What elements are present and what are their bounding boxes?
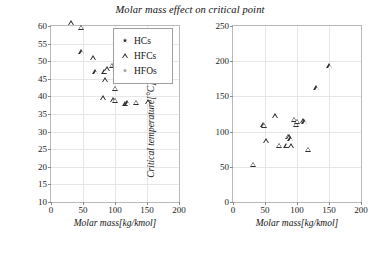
- marker-triangle-icon: [68, 20, 74, 42]
- y-axis-tick: [48, 167, 51, 168]
- gridline-vertical: [297, 26, 298, 202]
- marker-triangle-icon: [79, 49, 85, 71]
- marker-triangle-icon: [125, 100, 131, 122]
- x-axis-tick-label: 0: [231, 205, 236, 215]
- marker-star-gray-icon: [123, 68, 128, 73]
- x-axis-title: Molar mass[kg/kmol]: [256, 218, 339, 228]
- marker-triangle-icon: [112, 98, 118, 120]
- legend-marker: [119, 68, 131, 73]
- marker-triangle-icon: [302, 119, 308, 141]
- data-point-hfcs: [314, 85, 320, 103]
- data-point-hfcs: [68, 20, 74, 38]
- y-axis-tick: [48, 202, 51, 203]
- legend-item-hcs[interactable]: HCs: [119, 33, 167, 48]
- gridline-vertical: [329, 26, 330, 202]
- x-axis-tick-label: 200: [354, 205, 368, 215]
- legend-item-hfcs[interactable]: HFCs: [119, 48, 167, 63]
- x-axis-tick-label: 50: [79, 205, 88, 215]
- y-axis-tick-label: 0: [225, 197, 230, 207]
- y-axis-tick-label: 250: [216, 21, 230, 31]
- data-point-hfcs: [263, 138, 269, 156]
- marker-triangle-icon: [327, 63, 333, 85]
- y-axis-tick-label: 40: [38, 91, 47, 101]
- marker-star-dark-icon: [123, 38, 128, 43]
- y-axis-tick-label: 200: [216, 56, 230, 66]
- y-axis-tick-label: 45: [38, 74, 47, 84]
- gridline-horizontal: [51, 132, 179, 133]
- gridline-horizontal: [233, 61, 361, 62]
- y-axis-tick: [230, 167, 233, 168]
- y-axis-tick: [230, 132, 233, 133]
- legend-item-label: HCs: [134, 36, 151, 46]
- y-axis-tick-label: 50: [220, 162, 229, 172]
- panel-critical-temperature: 050100150200050100150200250Molar mass[kg…: [190, 0, 380, 260]
- gridline-vertical: [265, 26, 266, 202]
- data-point-hfcs: [276, 143, 282, 161]
- y-axis-tick: [230, 202, 233, 203]
- plot-area-critical-temperature: 050100150200050100150200250Molar mass[kg…: [232, 25, 362, 203]
- marker-triangle-icon: [306, 147, 312, 169]
- x-axis-tick-label: 50: [261, 205, 270, 215]
- gridline-horizontal: [233, 96, 361, 97]
- marker-triangle-icon: [93, 69, 99, 91]
- y-axis-tick: [48, 96, 51, 97]
- data-point-hfcs: [125, 100, 131, 118]
- y-axis-tick: [48, 114, 51, 115]
- y-axis-tick-label: 50: [38, 56, 47, 66]
- gridline-horizontal: [51, 184, 179, 185]
- data-point-hfcs: [79, 49, 85, 67]
- legend-item-label: HFOs: [134, 66, 157, 76]
- y-axis-tick: [48, 26, 51, 27]
- y-axis-tick-label: 35: [38, 109, 47, 119]
- y-axis-tick: [230, 61, 233, 62]
- data-point-hfcs: [93, 69, 99, 87]
- y-axis-tick-label: 100: [216, 127, 230, 137]
- x-axis-tick-label: 0: [49, 205, 54, 215]
- y-axis-tick-label: 10: [38, 197, 47, 207]
- x-axis-tick-label: 100: [290, 205, 304, 215]
- legend-marker: [119, 38, 131, 43]
- data-point-hfcs: [100, 95, 106, 113]
- legend-item-label: HFCs: [134, 51, 156, 61]
- y-axis-tick-label: 20: [38, 162, 47, 172]
- x-axis-tick-label: 150: [140, 205, 154, 215]
- y-axis-tick: [48, 61, 51, 62]
- data-point-hfcs: [102, 77, 108, 95]
- legend-marker: [119, 53, 131, 58]
- y-axis-tick: [48, 44, 51, 45]
- gridline-horizontal: [51, 149, 179, 150]
- legend-item-hfos[interactable]: HFOs: [119, 63, 167, 78]
- y-axis-tick: [230, 96, 233, 97]
- marker-triangle-icon: [314, 85, 320, 107]
- x-axis-tick-label: 100: [108, 205, 122, 215]
- y-axis-tick-label: 150: [216, 91, 230, 101]
- marker-triangle-icon: [100, 95, 106, 117]
- data-point-hfcs: [306, 147, 312, 165]
- marker-triangle-icon: [288, 143, 294, 165]
- data-point-hfcs: [112, 98, 118, 116]
- y-axis-tick: [48, 132, 51, 133]
- marker-triangle-icon: [250, 162, 256, 184]
- y-axis-tick: [230, 26, 233, 27]
- y-axis-tick: [48, 79, 51, 80]
- data-point-hfcs: [133, 100, 139, 118]
- data-point-hfcs: [302, 119, 308, 137]
- legend: HCsHFCsHFOs: [113, 28, 173, 84]
- marker-triangle-icon: [78, 25, 84, 47]
- y-axis-tick-label: 30: [38, 127, 47, 137]
- y-axis-tick-label: 15: [38, 179, 47, 189]
- gridline-horizontal: [51, 167, 179, 168]
- marker-triangle-icon: [272, 113, 278, 135]
- y-axis-tick-label: 55: [38, 39, 47, 49]
- data-point-hfcs: [288, 143, 294, 161]
- data-point-hfcs: [327, 63, 333, 81]
- data-point-hfcs: [78, 25, 84, 43]
- x-axis-title: Molar mass[kg/kmol]: [74, 218, 157, 228]
- y-axis-tick: [48, 184, 51, 185]
- marker-triangle-icon: [276, 143, 282, 165]
- marker-triangle-icon: [133, 100, 139, 122]
- x-axis-tick-label: 150: [322, 205, 336, 215]
- marker-triangle-icon: [263, 138, 269, 160]
- y-axis-tick-label: 60: [38, 21, 47, 31]
- data-point-hfcs: [250, 162, 256, 180]
